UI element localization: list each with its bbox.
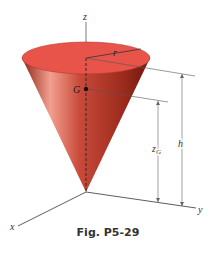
x-axis-line [18, 192, 86, 226]
height-label: h [178, 138, 183, 149]
z-axis-label: z [82, 11, 87, 22]
y-axis-line [86, 192, 196, 208]
figure-caption: Fig. P5-29 [0, 226, 216, 239]
centroid-point [84, 87, 88, 91]
y-axis-label: y [197, 204, 203, 215]
centroid-label: G [73, 84, 80, 95]
radius-label: r [113, 47, 117, 58]
cone-diagram: z r G h zG x y [0, 0, 216, 259]
zg-label: zG [151, 143, 161, 156]
